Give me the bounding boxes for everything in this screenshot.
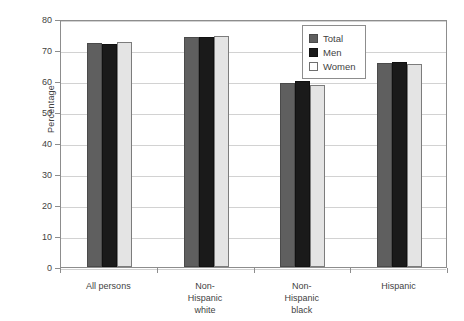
y-tick-label: 40 xyxy=(0,139,52,149)
bar-group xyxy=(351,21,448,267)
y-tick-label: 70 xyxy=(0,46,52,56)
bar-women xyxy=(214,36,229,267)
legend-label-total: Total xyxy=(323,33,343,44)
x-axis-label-line: Hispanic xyxy=(344,280,454,292)
x-axis-label-line: Non- xyxy=(150,280,260,292)
bar-chart: Percentage 01020304050607080 All persons… xyxy=(0,0,464,321)
bar-total xyxy=(280,83,295,267)
bar-women xyxy=(117,42,132,267)
bar-women xyxy=(310,85,325,267)
x-axis-label: All persons xyxy=(53,280,163,292)
bar-total xyxy=(377,63,392,267)
x-tick-mark xyxy=(157,268,158,273)
x-tick-mark xyxy=(60,268,61,273)
bar-women xyxy=(407,64,422,267)
bar-total xyxy=(87,43,102,267)
bar-group xyxy=(61,21,158,267)
x-axis-label-line: Hispanic xyxy=(247,292,357,304)
legend-swatch-women-icon xyxy=(309,62,318,71)
chart-legend: Total Men Women xyxy=(302,25,366,79)
bar-group xyxy=(158,21,255,267)
legend-item-women: Women xyxy=(309,59,356,73)
legend-label-men: Men xyxy=(323,47,341,58)
plot-area xyxy=(60,20,447,268)
legend-label-women: Women xyxy=(323,61,356,72)
bar-total xyxy=(184,37,199,267)
y-tick-label: 80 xyxy=(0,15,52,25)
legend-item-men: Men xyxy=(309,45,356,59)
y-tick-label: 30 xyxy=(0,170,52,180)
x-axis-label: Hispanic xyxy=(344,280,454,292)
y-tick-label: 60 xyxy=(0,77,52,87)
x-axis-label: Non-Hispanicblack xyxy=(247,280,357,316)
x-axis-label-line: white xyxy=(150,304,260,316)
y-tick-label: 10 xyxy=(0,232,52,242)
x-axis-label-line: black xyxy=(247,304,357,316)
legend-swatch-men-icon xyxy=(309,48,318,57)
x-axis-label-line: Hispanic xyxy=(150,292,260,304)
x-axis-label-line: All persons xyxy=(53,280,163,292)
x-tick-mark xyxy=(254,268,255,273)
legend-item-total: Total xyxy=(309,31,356,45)
bar-men xyxy=(392,62,407,267)
x-tick-mark xyxy=(447,268,448,273)
y-tick-label: 0 xyxy=(0,263,52,273)
x-axis-label: Non-Hispanicwhite xyxy=(150,280,260,316)
bar-men xyxy=(102,44,117,267)
y-tick-label: 20 xyxy=(0,201,52,211)
x-axis-label-line: Non- xyxy=(247,280,357,292)
x-tick-mark xyxy=(350,268,351,273)
bar-men xyxy=(295,81,310,267)
y-tick-label: 50 xyxy=(0,108,52,118)
bar-men xyxy=(199,37,214,267)
legend-swatch-total-icon xyxy=(309,34,318,43)
